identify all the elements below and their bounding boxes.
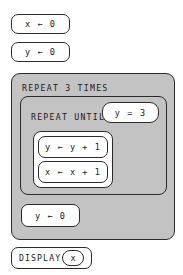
statement-block-increment-x[interactable]: x ← x + 1 [38,161,108,183]
statement-block-init-x[interactable]: x ← 0 [11,14,70,34]
statement-block-increment-y[interactable]: y ← y + 1 [38,136,108,158]
repeat-until-condition-oval[interactable]: y = 3 [102,102,159,123]
statement-block-reset-y[interactable]: y ← 0 [21,204,80,227]
repeat-times-label: REPEAT 3 TIMES [22,84,109,92]
display-value-oval[interactable]: x [62,250,84,266]
statement-block-init-y[interactable]: y ← 0 [11,42,70,62]
repeat-until-label: REPEAT UNTIL [31,113,105,121]
display-label: DISPLAY [19,254,61,262]
program-diagram-canvas: x ← 0 y ← 0 REPEAT 3 TIMES REPEAT UNTIL … [0,0,183,275]
